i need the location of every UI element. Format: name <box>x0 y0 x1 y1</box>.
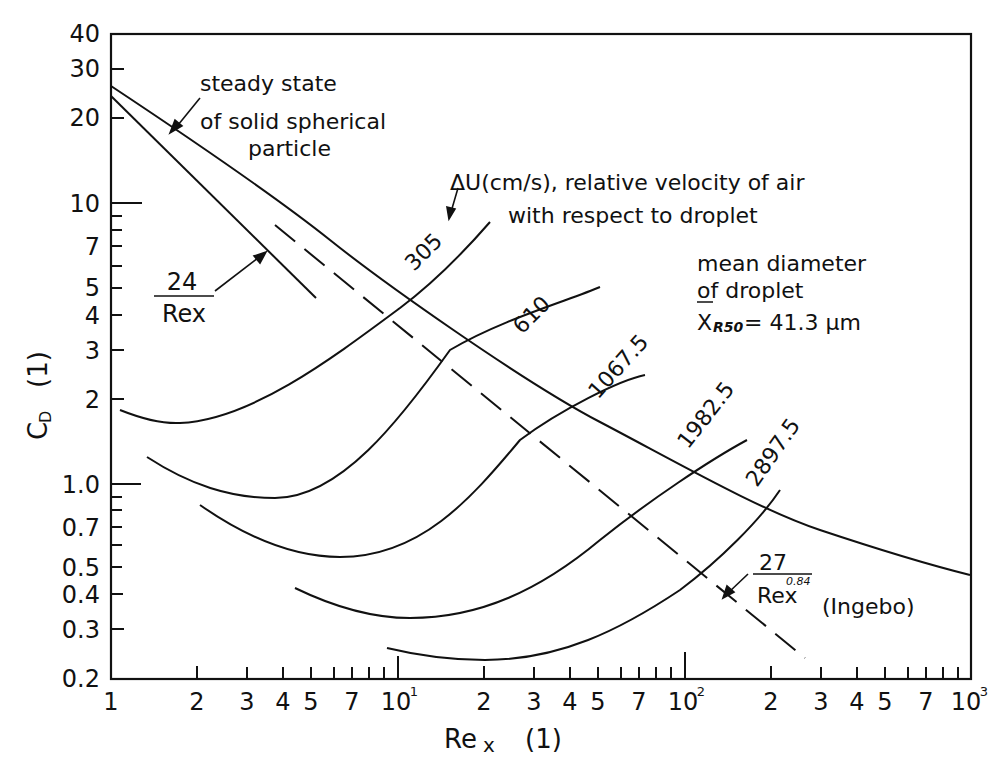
x-tick-100-exp: 2 <box>697 684 705 699</box>
x-tick-labels: 1 2 3 4 5 7 10 1 2 3 4 5 7 10 2 2 3 4 5 … <box>103 684 988 716</box>
delta-u-label-2: with respect to droplet <box>508 203 758 228</box>
ingebo-numerator: 27 <box>759 550 787 575</box>
steady-state-label-2: of solid spherical <box>200 109 386 134</box>
y-tick-0.2: 0.2 <box>62 665 100 693</box>
y-tick-0.7: 0.7 <box>62 514 100 542</box>
du-arrowhead <box>447 207 455 219</box>
x-axis-title-main: Re <box>444 724 477 754</box>
x-tick-20: 2 <box>476 688 491 716</box>
y-axis-title-sub: D <box>36 411 55 423</box>
steady-state-label-3: particle <box>248 136 331 161</box>
y-tick-0.3: 0.3 <box>62 616 100 644</box>
x-tick-50: 5 <box>590 688 605 716</box>
mean-diameter-label-1: mean diameter <box>697 251 867 276</box>
ingebo-name: (Ingebo) <box>822 594 915 619</box>
y-tick-30: 30 <box>69 55 100 83</box>
y-axis-title: C D (1) <box>23 351 55 440</box>
y-tick-0.5: 0.5 <box>62 554 100 582</box>
y-tick-1: 1.0 <box>62 471 100 499</box>
mean-diameter-sub: R50 <box>713 319 744 335</box>
x-tick-7: 7 <box>344 688 359 716</box>
x-tick-1000-exp: 3 <box>980 684 988 699</box>
mean-diameter-value: = 41.3 μm <box>744 310 861 335</box>
mean-diameter-symbol: X <box>697 310 712 335</box>
x-tick-10-exp: 1 <box>410 684 418 699</box>
ingebo-denominator: Rex <box>757 583 797 608</box>
label-305: 305 <box>400 228 447 275</box>
y-tick-40: 40 <box>69 20 100 48</box>
steady-state-leader <box>178 98 200 125</box>
y-tick-0.4: 0.4 <box>62 581 100 609</box>
r24-leader <box>215 258 258 291</box>
r24-arrowhead <box>254 252 266 263</box>
label-610: 610 <box>508 291 555 338</box>
x-tick-5: 5 <box>303 688 318 716</box>
annotations: steady state of solid spherical particle… <box>154 71 915 619</box>
y-tick-3: 3 <box>85 337 100 365</box>
drag-coefficient-chart: 40 30 20 10 7 5 4 3 2 1.0 0.7 0.5 0.4 0.… <box>0 0 999 768</box>
x-tick-1: 1 <box>103 688 118 716</box>
x-axis-title: Re x (1) <box>444 724 562 757</box>
steady-state-label-1: steady state <box>200 71 337 96</box>
x-tick-500: 5 <box>877 688 892 716</box>
x-tick-70: 7 <box>631 688 646 716</box>
delta-u-label-1: ΔU(cm/s), relative velocity of air <box>450 170 805 195</box>
x-tick-1000: 10 <box>951 688 982 716</box>
r24-numerator: 24 <box>167 268 198 296</box>
x-tick-200: 2 <box>763 688 778 716</box>
label-1982-5: 1982.5 <box>672 377 739 453</box>
curve-2897-5 <box>387 490 780 660</box>
x-axis-ticks <box>197 652 958 679</box>
y-tick-10: 10 <box>69 190 100 218</box>
y-tick-7: 7 <box>85 233 100 261</box>
x-tick-4: 4 <box>275 688 290 716</box>
mean-diameter-label-2: of droplet <box>697 278 804 303</box>
x-tick-400: 4 <box>849 688 864 716</box>
x-axis-title-unit: (1) <box>525 724 562 754</box>
x-tick-100: 10 <box>668 688 699 716</box>
y-tick-labels: 40 30 20 10 7 5 4 3 2 1.0 0.7 0.5 0.4 0.… <box>62 20 100 693</box>
y-axis-title-unit: (1) <box>23 351 53 388</box>
y-axis-title-main: C <box>23 422 53 440</box>
y-tick-2: 2 <box>85 386 100 414</box>
x-tick-3: 3 <box>239 688 254 716</box>
x-tick-2: 2 <box>189 688 204 716</box>
x-tick-40: 4 <box>562 688 577 716</box>
y-tick-20: 20 <box>69 104 100 132</box>
x-tick-30: 3 <box>526 688 541 716</box>
x-tick-10: 10 <box>381 688 412 716</box>
label-1067-5: 1067.5 <box>583 329 653 403</box>
x-axis-title-sub: x <box>483 733 495 757</box>
r24-denominator: Rex <box>162 300 206 328</box>
curve-1067-5 <box>200 375 645 557</box>
x-tick-300: 3 <box>813 688 828 716</box>
y-axis-ticks <box>111 69 142 629</box>
label-2897-5: 2897.5 <box>741 413 806 490</box>
x-tick-700: 7 <box>918 688 933 716</box>
y-tick-4: 4 <box>85 302 100 330</box>
y-tick-5: 5 <box>85 274 100 302</box>
